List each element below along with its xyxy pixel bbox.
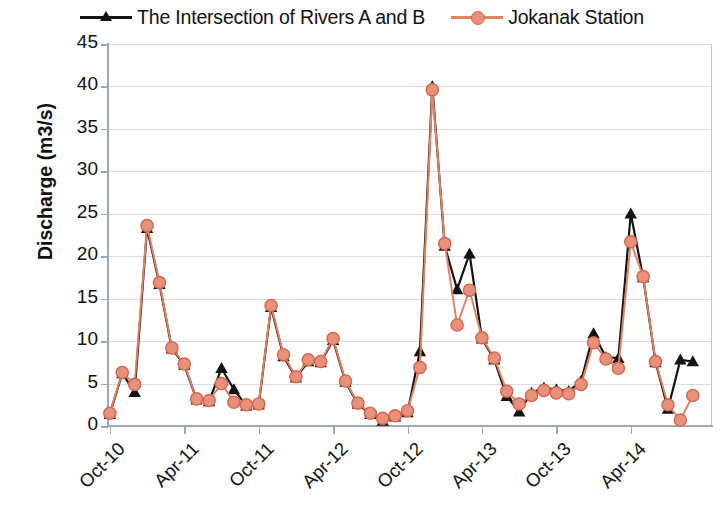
legend-circle-b — [471, 11, 485, 25]
x-axis-tick-mark — [184, 427, 186, 434]
gridline — [109, 341, 711, 342]
y-axis-tick-mark — [101, 426, 108, 428]
x-axis-tick-label: Apr-12 — [273, 438, 352, 517]
chart-legend: The Intersection of Rivers A and B Jokan… — [0, 0, 724, 34]
y-axis-tick-mark — [101, 44, 108, 46]
x-axis-tick-label: Apr-14 — [571, 438, 650, 517]
legend-entry-series-a: The Intersection of Rivers A and B — [80, 6, 425, 29]
legend-entry-series-b: Jokanak Station — [451, 6, 644, 29]
x-axis-tick-label: Apr-13 — [422, 438, 501, 517]
x-axis-tick-mark — [333, 427, 335, 434]
x-axis-tick-mark — [631, 427, 633, 434]
plot-area — [108, 44, 712, 426]
gridline — [109, 86, 711, 87]
gridline — [109, 171, 711, 172]
y-axis-tick-label: 0 — [6, 413, 98, 435]
y-axis-title: Discharge (m3/s) — [34, 32, 57, 332]
gridline — [109, 129, 711, 130]
gridline — [109, 384, 711, 385]
y-axis-tick-mark — [101, 256, 108, 258]
chart-container: The Intersection of Rivers A and B Jokan… — [0, 0, 724, 523]
y-axis-tick-mark — [101, 214, 108, 216]
y-axis-tick-mark — [101, 129, 108, 131]
y-axis-tick-mark — [101, 86, 108, 88]
gridline — [109, 299, 711, 300]
x-axis-tick-mark — [556, 427, 558, 434]
legend-label-series-a: The Intersection of Rivers A and B — [137, 6, 425, 29]
x-axis-tick-label: Oct-12 — [348, 438, 427, 517]
x-axis-tick-mark — [110, 427, 112, 434]
x-axis-tick-mark — [408, 427, 410, 434]
y-axis-tick-mark — [101, 171, 108, 173]
x-axis-tick-label: Oct-13 — [497, 438, 576, 517]
x-axis-line — [107, 425, 713, 427]
y-axis-tick-mark — [101, 299, 108, 301]
x-axis-tick-mark — [482, 427, 484, 434]
x-axis-tick-label: Oct-11 — [199, 438, 278, 517]
y-axis-tick-label: 5 — [6, 371, 98, 393]
x-axis-tick-label: Apr-11 — [125, 438, 204, 517]
gridline — [109, 44, 711, 45]
y-axis-tick-mark — [101, 341, 108, 343]
x-axis-tick-mark — [259, 427, 261, 434]
legend-label-series-b: Jokanak Station — [508, 6, 644, 29]
y-axis-tick-mark — [101, 384, 108, 386]
y-axis-line — [107, 43, 109, 427]
gridlines — [109, 45, 711, 425]
gridline — [109, 256, 711, 257]
gridline — [109, 214, 711, 215]
circle-marker-icon — [451, 9, 503, 25]
legend-triangle-a — [100, 11, 112, 21]
